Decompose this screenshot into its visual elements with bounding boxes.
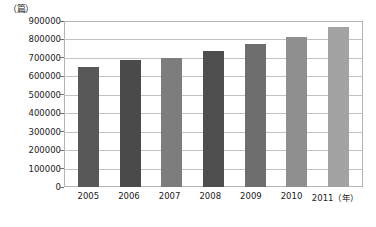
x-axis-tick-label-2010: 2010 <box>271 191 312 203</box>
y-axis-tick-label: 800000 <box>3 34 61 44</box>
bar-slot <box>193 21 235 187</box>
x-axis-tick-label-2005: 2005 <box>68 191 109 203</box>
y-axis-tick-label: 700000 <box>3 53 61 63</box>
bar-chart: （篇） 900000800000700000600000500000400000… <box>0 0 376 227</box>
x-axis-tick-label-2007: 2007 <box>149 191 190 203</box>
y-axis-tick-label: 300000 <box>3 127 61 137</box>
bar-2008 <box>203 51 224 187</box>
x-axis-tick-label-2008: 2008 <box>190 191 231 203</box>
bar-slot <box>68 21 110 187</box>
y-axis-tick-label: 600000 <box>3 71 61 81</box>
bars-container <box>64 21 363 187</box>
y-axis-tick-label: 500000 <box>3 90 61 100</box>
x-axis-tick-label-2011: 2011（年） <box>312 191 359 203</box>
bar-2010 <box>286 37 307 187</box>
y-axis-tick-label: 100000 <box>3 164 61 174</box>
y-axis-tick-label: 900000 <box>3 16 61 26</box>
y-axis-tick-label: 0 <box>3 182 61 192</box>
bar-2007 <box>161 58 182 187</box>
x-axis-unit-label: （年） <box>333 193 359 203</box>
bar-2005 <box>78 67 99 187</box>
y-axis-unit-label: （篇） <box>8 2 34 15</box>
bar-slot <box>151 21 193 187</box>
bar-slot <box>317 21 359 187</box>
bar-slot <box>110 21 152 187</box>
bar-2006 <box>120 60 141 187</box>
x-axis: 2005200620072008200920102011（年） <box>64 191 363 203</box>
bar-slot <box>276 21 318 187</box>
bar-2011 <box>328 27 349 187</box>
y-axis-tick-label: 200000 <box>3 145 61 155</box>
x-axis-tick-label-2009: 2009 <box>231 191 272 203</box>
bar-2009 <box>245 44 266 187</box>
y-axis-tick-label: 400000 <box>3 108 61 118</box>
bar-slot <box>234 21 276 187</box>
x-axis-tick-label-2006: 2006 <box>109 191 150 203</box>
